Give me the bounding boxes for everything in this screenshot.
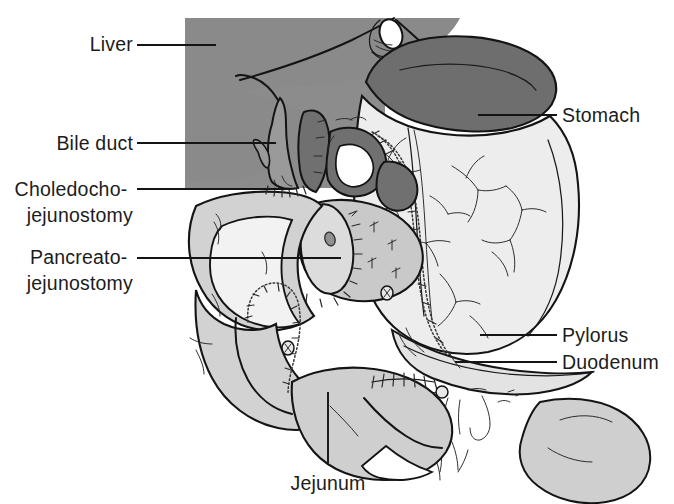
label-bile-duct: Bile duct bbox=[56, 132, 133, 154]
stomach-fundus bbox=[366, 36, 556, 131]
jejunal-loop-lower bbox=[292, 368, 453, 480]
label-pylorus: Pylorus bbox=[562, 324, 628, 346]
label-jejunum: Jejunum bbox=[290, 472, 365, 494]
label-choledochojejunostomy: Choledocho- jejunostomy bbox=[15, 178, 133, 226]
label-pancreatojejunostomy: Pancreato- jejunostomy bbox=[26, 246, 133, 294]
label-stomach: Stomach bbox=[562, 104, 640, 126]
label-liver: Liver bbox=[90, 33, 134, 55]
anatomy-illustration: Liver Bile duct Choledocho- jejunostomy … bbox=[0, 0, 674, 504]
label-duodenum: Duodenum bbox=[562, 351, 659, 373]
anatomy-figure: Liver Bile duct Choledocho- jejunostomy … bbox=[0, 0, 674, 504]
bowel-loop-lower-right bbox=[520, 399, 650, 503]
